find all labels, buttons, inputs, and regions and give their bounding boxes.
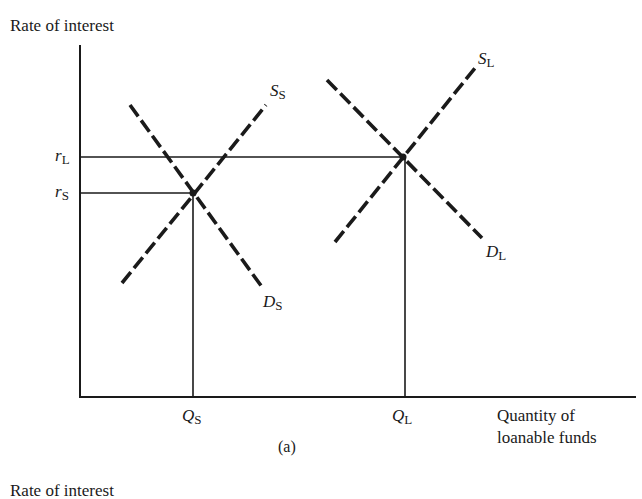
y-axis-title: Rate of interest [10, 17, 114, 34]
q-short-sub: S [194, 412, 201, 427]
demand-short-sub: S [275, 298, 282, 313]
supply-short-main: S [270, 81, 279, 100]
next-panel-y-axis-title: Rate of interest [10, 482, 114, 499]
panel-label: (a) [278, 439, 296, 455]
demand-long-sub: L [498, 248, 506, 263]
demand-short-main: D [263, 292, 275, 311]
supply-long-sub: L [487, 55, 495, 70]
r-long-sub: L [62, 152, 70, 167]
x-axis-title-line1: Quantity of [497, 407, 575, 424]
q-long-main: Q [392, 406, 404, 425]
long-equilibrium-point [400, 154, 407, 161]
demand-short-label: DS [263, 293, 283, 312]
r-long-label: rL [55, 147, 70, 166]
demand-long-label: DL [486, 243, 506, 262]
supply-short-label: SS [270, 82, 286, 101]
r-long-main: r [55, 146, 62, 165]
q-short-label: QS [182, 407, 202, 426]
supply-long-label: SL [478, 50, 494, 69]
r-short-main: r [55, 182, 62, 201]
q-long-sub: L [404, 412, 412, 427]
short-equilibrium-point [190, 190, 197, 197]
x-axis-title-line2: loanable funds [497, 429, 597, 446]
supply-short-sub: S [279, 87, 286, 102]
q-short-main: Q [182, 406, 194, 425]
q-long-label: QL [392, 407, 412, 426]
r-short-label: rS [55, 183, 69, 202]
supply-long-main: S [478, 49, 487, 68]
r-short-sub: S [62, 188, 69, 203]
demand-long-main: D [486, 242, 498, 261]
